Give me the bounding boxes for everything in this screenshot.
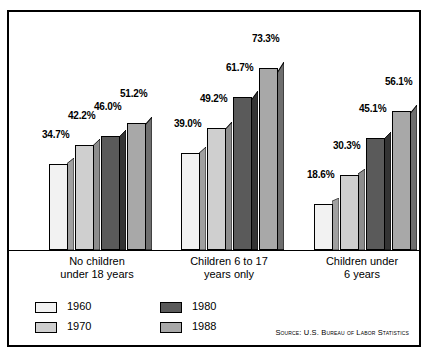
bar-front-face [101, 136, 120, 250]
bar-1960-group2 [181, 153, 200, 250]
bar-front-face [207, 128, 226, 250]
bar-front-face [366, 138, 385, 250]
bar-group-no-children: 34.7% 42.2% 46.0% 51.2% [42, 12, 152, 250]
category-label-line: No children [37, 255, 157, 268]
chart-frame: 34.7% 42.2% 46.0% 51.2% [7, 10, 421, 347]
bar-1980-group3 [366, 138, 385, 250]
bar-value-label: 39.0% [174, 118, 201, 129]
category-label-line: years only [169, 268, 289, 281]
legend-label-1960: 1960 [67, 300, 91, 312]
bar-3d-side [199, 147, 206, 250]
bar-1970-group2 [207, 128, 226, 250]
category-label-no-children: No children under 18 years [37, 255, 157, 281]
bar-3d-side [145, 117, 152, 250]
bar-value-label: 45.1% [359, 103, 386, 114]
axis-baseline [9, 250, 419, 251]
legend-swatch-1980 [160, 302, 182, 313]
bar-3d-side [384, 132, 391, 250]
category-label-children-under-6: Children under 6 years [302, 255, 422, 281]
bar-1988-group3 [392, 111, 411, 250]
bar-3d-side [410, 105, 417, 250]
legend-label-1970: 1970 [67, 320, 91, 332]
bar-group-children-6-to-17: 39.0% 49.2% 61.7% 73.3% [174, 12, 284, 250]
bar-value-label: 18.6% [307, 169, 334, 180]
bar-1970-group1 [75, 145, 94, 250]
plot-area: 34.7% 42.2% 46.0% 51.2% [9, 12, 419, 250]
bar-value-label: 51.2% [120, 88, 147, 99]
bar-value-label: 49.2% [200, 93, 227, 104]
bar-group-children-under-6: 18.6% 30.3% 45.1% 56.1% [307, 12, 417, 250]
bar-3d-side [332, 198, 339, 250]
legend-label-1988: 1988 [192, 320, 216, 332]
legend-swatch-1988 [160, 322, 182, 333]
bar-1988-group2 [259, 68, 278, 250]
bar-front-face [314, 204, 333, 250]
bar-value-label: 34.7% [42, 129, 69, 140]
bar-value-label: 42.2% [68, 110, 95, 121]
bar-front-face [233, 97, 252, 250]
bar-front-face [392, 111, 411, 250]
bar-value-label: 30.3% [333, 140, 360, 151]
bar-front-face [259, 68, 278, 250]
bar-front-face [127, 123, 146, 250]
bar-3d-side [251, 91, 258, 250]
legend-swatch-1970 [35, 322, 57, 333]
category-label-children-6-to-17: Children 6 to 17 years only [169, 255, 289, 281]
bar-front-face [49, 164, 68, 250]
legend-label-1980: 1980 [192, 300, 216, 312]
bar-3d-side [277, 62, 284, 250]
legend-swatch-1960 [35, 302, 57, 313]
bar-1980-group2 [233, 97, 252, 250]
bar-value-label: 56.1% [385, 76, 412, 87]
category-label-line: under 18 years [37, 268, 157, 281]
category-label-line: 6 years [302, 268, 422, 281]
bar-front-face [181, 153, 200, 250]
bar-front-face [340, 175, 359, 250]
bar-1988-group1 [127, 123, 146, 250]
source-note: Source: U.S. Bureau of Labor Statistics [275, 328, 409, 337]
bar-3d-side [358, 169, 365, 250]
bar-1960-group1 [49, 164, 68, 250]
bar-1970-group3 [340, 175, 359, 250]
bar-3d-side [93, 139, 100, 250]
bar-1960-group3 [314, 204, 333, 250]
bar-3d-side [225, 122, 232, 250]
bar-3d-side [67, 158, 74, 250]
bar-front-face [75, 145, 94, 250]
bar-value-label: 61.7% [226, 62, 253, 73]
bar-value-label: 73.3% [252, 33, 279, 44]
category-label-line: Children under [302, 255, 422, 268]
bar-value-label: 46.0% [94, 101, 121, 112]
bar-1980-group1 [101, 136, 120, 250]
bar-3d-side [119, 130, 126, 250]
category-label-line: Children 6 to 17 [169, 255, 289, 268]
